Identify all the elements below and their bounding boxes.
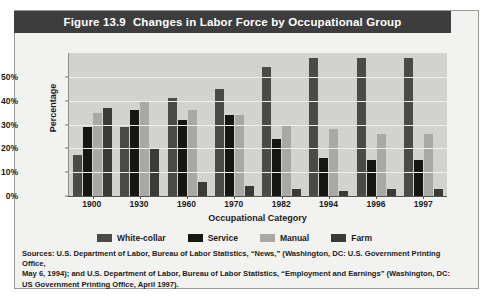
- y-axis-tick-mark: [65, 100, 68, 101]
- legend-item-service: Service: [188, 233, 238, 243]
- bar-white-collar-1997: [404, 58, 413, 196]
- chart-area: Percentage 19001930196019701982199419961…: [22, 47, 447, 227]
- bar-farm-1996: [387, 189, 396, 196]
- bar-farm-1960: [198, 182, 207, 196]
- legend-item-white-collar: White-collar: [97, 233, 166, 243]
- x-axis-tick-label: 1994: [305, 199, 352, 209]
- legend-swatch-icon: [331, 234, 346, 242]
- bar-service-1960: [178, 120, 187, 196]
- bar-white-collar-1994: [309, 58, 318, 196]
- bar-white-collar-1960: [168, 98, 177, 196]
- bar-service-1997: [414, 160, 423, 196]
- figure-title-bar: Figure 13.9 Changes in Labor Force by Oc…: [14, 11, 451, 33]
- gridline: [69, 77, 447, 78]
- x-axis-tick-label: 1900: [68, 199, 115, 209]
- source-line-1: Sources: U.S. Department of Labor, Burea…: [22, 249, 462, 269]
- x-axis-tick-label: 1960: [163, 199, 210, 209]
- bar-service-1900: [83, 127, 92, 196]
- x-axis-tick-label: 1970: [210, 199, 257, 209]
- bar-manual-1997: [424, 134, 433, 196]
- legend-swatch-icon: [97, 234, 112, 242]
- y-axis-title: Percentage: [48, 73, 58, 143]
- bar-farm-1900: [103, 108, 112, 196]
- legend-item-manual: Manual: [260, 233, 309, 243]
- gridline: [69, 101, 447, 102]
- source-note: Sources: U.S. Department of Labor, Burea…: [22, 249, 462, 290]
- y-axis-tick-label: 30%: [0, 120, 18, 130]
- y-axis-tick-mark: [65, 196, 68, 197]
- y-axis-tick-label: 50%: [0, 72, 18, 82]
- bar-manual-1960: [188, 110, 197, 196]
- bar-white-collar-1900: [73, 155, 82, 196]
- source-line-2: May 6, 1994); and U.S. Department of Lab…: [22, 269, 462, 279]
- x-axis-labels: 19001930196019701982199419961997: [68, 199, 447, 209]
- bar-service-1996: [367, 160, 376, 196]
- bar-white-collar-1996: [357, 58, 366, 196]
- bar-manual-1994: [329, 129, 338, 196]
- x-axis-line: [68, 196, 447, 197]
- legend-label: White-collar: [117, 233, 166, 243]
- legend-swatch-icon: [260, 234, 275, 242]
- bar-service-1994: [319, 158, 328, 196]
- bar-service-1970: [225, 115, 234, 196]
- bar-farm-1982: [292, 189, 301, 196]
- gridline: [69, 172, 447, 173]
- y-axis-tick-mark: [65, 76, 68, 77]
- bar-farm-1997: [434, 189, 443, 196]
- bar-manual-1982: [282, 125, 291, 197]
- x-axis-tick-label: 1996: [352, 199, 399, 209]
- x-axis-tick-label: 1997: [400, 199, 447, 209]
- figure-title: Changes in Labor Force by Occupational G…: [133, 16, 402, 28]
- legend-item-farm: Farm: [331, 233, 372, 243]
- legend-label: Farm: [351, 233, 372, 243]
- gridline: [69, 148, 447, 149]
- figure-number: Figure 13.9: [64, 16, 126, 28]
- legend-swatch-icon: [188, 234, 203, 242]
- y-axis-tick-label: 20%: [0, 143, 18, 153]
- bar-manual-1996: [377, 134, 386, 196]
- legend-label: Service: [208, 233, 238, 243]
- y-axis-tick-label: 0%: [0, 191, 18, 201]
- bar-service-1930: [130, 110, 139, 196]
- y-axis-tick-mark: [65, 148, 68, 149]
- bar-farm-1970: [245, 186, 254, 196]
- bar-manual-1970: [235, 115, 244, 196]
- bar-white-collar-1930: [120, 127, 129, 196]
- source-line-3: US Government Printing Office, April 199…: [22, 280, 462, 290]
- x-axis-title: Occupational Category: [68, 213, 447, 223]
- chart-legend: White-collarServiceManualFarm: [22, 233, 447, 243]
- plot-area: [68, 53, 447, 196]
- y-axis-tick-label: 10%: [0, 167, 18, 177]
- gridline: [69, 125, 447, 126]
- y-axis-tick-mark: [65, 172, 68, 173]
- bar-white-collar-1970: [215, 89, 224, 196]
- y-axis-tick-mark: [65, 124, 68, 125]
- y-axis-tick-label: 40%: [0, 96, 18, 106]
- bar-white-collar-1982: [262, 67, 271, 196]
- legend-label: Manual: [280, 233, 309, 243]
- x-axis-tick-label: 1982: [258, 199, 305, 209]
- x-axis-tick-label: 1930: [115, 199, 162, 209]
